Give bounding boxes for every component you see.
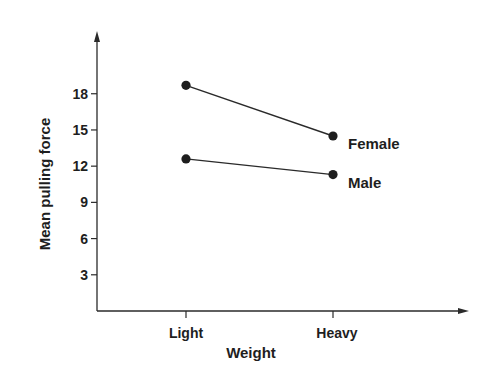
data-point-marker xyxy=(328,131,337,140)
x-tick-label: Heavy xyxy=(316,325,357,341)
y-axis-title: Mean pulling force xyxy=(36,118,53,251)
series-female: Female xyxy=(181,81,399,152)
x-tick-label: Light xyxy=(169,325,204,341)
x-ticks: LightHeavy xyxy=(169,311,358,341)
series-group: FemaleMale xyxy=(181,81,399,191)
series-male: Male xyxy=(181,154,381,190)
series-label: Male xyxy=(348,174,381,191)
data-point-marker xyxy=(181,154,190,163)
y-tick-label: 12 xyxy=(72,158,88,174)
x-axis: LightHeavy xyxy=(97,308,469,341)
x-axis-arrow-icon xyxy=(458,308,469,314)
interaction-plot: 369121518 LightHeavy FemaleMale Weight M… xyxy=(0,0,492,388)
series-label: Female xyxy=(348,135,400,152)
y-axis-arrow-icon xyxy=(94,31,100,42)
series-line xyxy=(186,85,333,136)
y-ticks: 369121518 xyxy=(72,86,97,283)
series-line xyxy=(186,159,333,175)
data-point-marker xyxy=(328,170,337,179)
y-axis: 369121518 xyxy=(72,31,100,311)
y-tick-label: 18 xyxy=(72,86,88,102)
y-tick-label: 3 xyxy=(80,267,88,283)
data-point-marker xyxy=(181,81,190,90)
y-tick-label: 6 xyxy=(80,231,88,247)
x-axis-title: Weight xyxy=(226,344,276,361)
y-tick-label: 15 xyxy=(72,122,88,138)
y-tick-label: 9 xyxy=(80,194,88,210)
